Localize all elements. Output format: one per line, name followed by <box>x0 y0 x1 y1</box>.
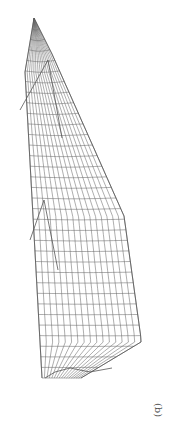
hull-wireframe-diagram <box>0 0 179 438</box>
figure-label: (b) <box>148 400 168 420</box>
wireframe-mesh <box>25 18 141 378</box>
